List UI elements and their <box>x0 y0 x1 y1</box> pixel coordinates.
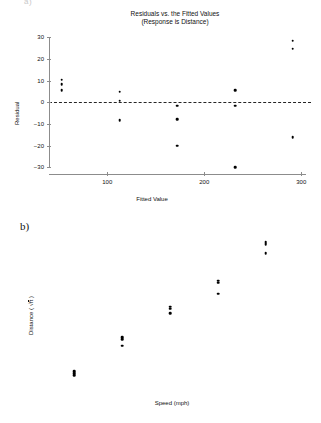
data-point <box>265 252 268 255</box>
x-tick-label: 300 <box>296 179 306 185</box>
x-tick-mark <box>107 172 108 176</box>
data-point <box>234 89 237 92</box>
y-tick-label: 20 <box>21 56 44 62</box>
data-point <box>291 136 294 139</box>
y-tick-label: −10 <box>21 121 44 127</box>
x-tick-label: 100 <box>102 179 112 185</box>
data-point <box>60 78 63 81</box>
chart-a-zero-reference-line <box>49 102 311 103</box>
panel-a-residual-plot: a) Residuals vs. the Fitted Values (Resp… <box>0 0 321 210</box>
y-tick-mark <box>47 146 51 147</box>
chart-b-y-axis-title: Distance ( √ft ) <box>28 296 34 335</box>
y-tick-label: 30 <box>21 34 44 40</box>
data-point <box>217 281 220 284</box>
y-tick-label: 0 <box>21 99 44 105</box>
data-point <box>119 119 122 122</box>
chart-a-subtitle: (Response is Distance) <box>115 18 235 26</box>
data-point <box>291 47 294 50</box>
data-point <box>121 345 124 348</box>
chart-a-plot-area <box>49 33 311 174</box>
chart-a-x-axis-line <box>49 174 306 175</box>
data-point <box>121 338 124 341</box>
x-tick-mark <box>204 172 205 176</box>
y-tick-mark <box>47 59 51 60</box>
y-tick-mark <box>47 81 51 82</box>
chart-b-x-axis-title: Speed (mph) <box>155 400 190 406</box>
data-point <box>176 118 179 121</box>
data-point <box>169 307 172 310</box>
data-point <box>234 166 237 169</box>
y-tick-label: −30 <box>21 164 44 170</box>
data-point <box>169 312 172 315</box>
y-tick-mark <box>47 167 51 168</box>
data-point <box>217 292 220 295</box>
chart-b-plot-area <box>60 235 285 381</box>
chart-a-title-block: Residuals vs. the Fitted Values (Respons… <box>115 10 235 26</box>
clipped-panel-a-tag: a) <box>24 0 32 6</box>
y-tick-mark <box>47 37 51 38</box>
data-point <box>119 100 122 103</box>
data-point <box>234 104 237 107</box>
y-tick-label: −20 <box>21 143 44 149</box>
x-tick-mark <box>301 172 302 176</box>
data-point <box>176 104 179 107</box>
data-point <box>119 90 122 93</box>
data-point <box>60 83 63 86</box>
chart-a-x-axis-title: Fitted Value <box>136 196 168 202</box>
data-point <box>291 39 294 42</box>
sqrt-icon: √ft <box>28 300 34 307</box>
data-point <box>176 145 179 148</box>
x-tick-label: 200 <box>199 179 209 185</box>
chart-a-y-axis-title: Residual <box>14 102 20 125</box>
panel-b-tag: b) <box>20 220 29 232</box>
chart-a-title: Residuals vs. the Fitted Values <box>131 10 220 17</box>
data-point <box>73 374 76 377</box>
y-tick-label: 10 <box>21 78 44 84</box>
data-point <box>60 89 63 92</box>
y-tick-mark <box>47 124 51 125</box>
chart-b-y-axis-title-prefix: Distance ( <box>28 306 34 335</box>
y-tick-mark <box>47 102 51 103</box>
panel-b-distance-vs-speed: b) 81318 2030405060 Distance ( √ft ) Spe… <box>0 210 321 423</box>
data-point <box>265 243 268 246</box>
figure-two-panel-scatterplots: a) Residuals vs. the Fitted Values (Resp… <box>0 0 321 423</box>
